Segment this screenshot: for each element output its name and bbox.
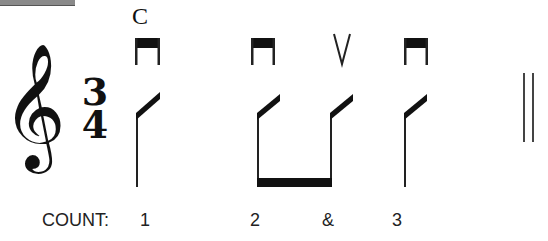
down-bow-icon	[135, 38, 160, 65]
slash-note	[404, 94, 427, 187]
notation	[0, 0, 548, 241]
count-beat: 2	[250, 210, 260, 231]
slash-note	[257, 94, 280, 187]
count-beat: &	[322, 210, 334, 231]
double-barline	[524, 73, 533, 142]
down-bow-icon	[251, 38, 275, 65]
slash-note	[330, 94, 353, 187]
beam	[257, 178, 332, 187]
up-bow-icon	[334, 34, 350, 64]
down-bow-icon	[404, 38, 428, 65]
count-beat: 3	[392, 210, 402, 231]
count-label: COUNT:	[42, 210, 109, 231]
slash-note	[136, 92, 160, 187]
count-beat: 1	[140, 210, 150, 231]
